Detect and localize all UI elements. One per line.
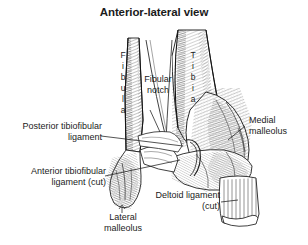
tibia-letter: b <box>188 72 198 83</box>
fibula-letter: i <box>118 61 128 72</box>
label-deltoid-ligament-cut: Deltoid ligament (cut) <box>130 190 220 211</box>
fibula-letter: l <box>118 94 128 105</box>
fibula-letter: F <box>118 50 128 61</box>
figure-title: Anterior-lateral view <box>0 6 308 18</box>
label-lateral-malleolus: Lateral malleolus <box>92 212 154 233</box>
label-medial-malleolus: Medial malleolus <box>249 115 305 136</box>
label-posterior-tibiofibular-ligament: Posterior tibiofibular ligament <box>6 121 102 142</box>
tibia-letter: a <box>188 94 198 105</box>
fibula-letter: u <box>118 83 128 94</box>
label-anterior-tibiofibular-ligament-cut: Anterior tibiofibular ligament (cut) <box>6 166 106 187</box>
bone-label-tibia: T i b i a <box>188 50 198 105</box>
anatomical-figure: Anterior-lateral view F i b u l a T i b … <box>0 0 308 245</box>
deltoid-ligament <box>219 175 259 226</box>
tibia-letter: i <box>188 61 198 72</box>
tibia-letter: T <box>188 50 198 61</box>
tibia-letter: i <box>188 83 198 94</box>
fibula-letter: b <box>118 72 128 83</box>
fibula-letter: a <box>118 105 128 116</box>
bone-label-fibula: F i b u l a <box>118 50 128 116</box>
label-fibular-notch: Fibular notch <box>132 74 184 95</box>
